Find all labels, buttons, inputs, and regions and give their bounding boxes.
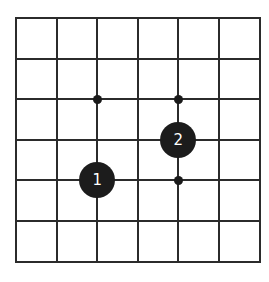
grid-line-vertical: [137, 17, 139, 263]
go-board[interactable]: 12: [0, 0, 269, 282]
grid-line-horizontal: [15, 220, 261, 222]
grid-line-vertical: [218, 17, 220, 263]
grid-line-horizontal: [15, 261, 261, 263]
star-point: [93, 95, 102, 104]
grid-line-horizontal: [15, 179, 261, 181]
star-point: [174, 176, 183, 185]
black-stone[interactable]: 2: [160, 122, 196, 158]
star-point: [174, 95, 183, 104]
black-stone[interactable]: 1: [79, 162, 115, 198]
grid-line-vertical: [259, 17, 261, 263]
